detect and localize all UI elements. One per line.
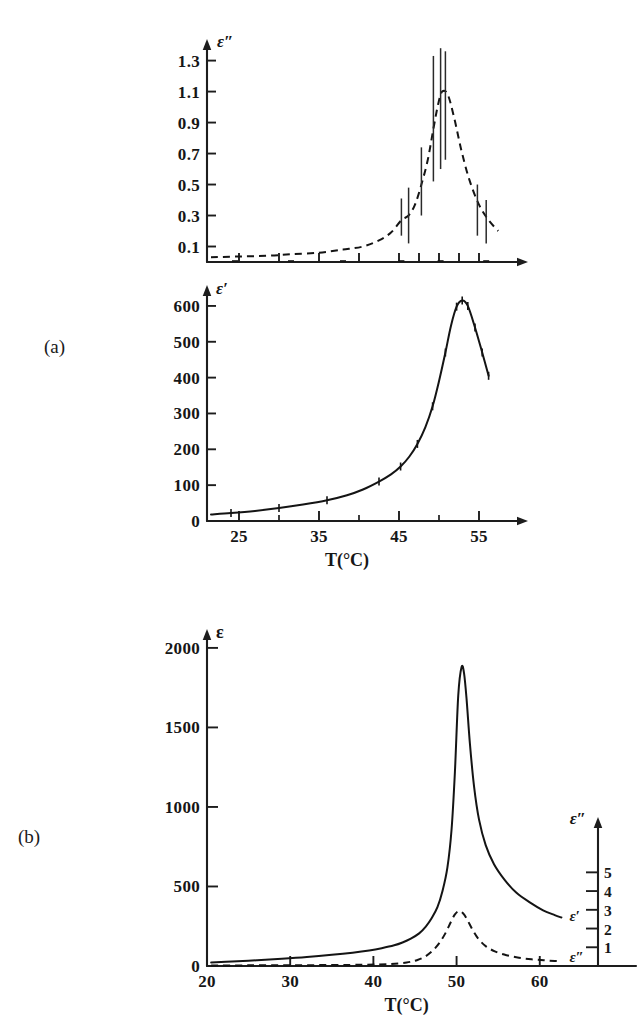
x-axis-caption: T(°C) [385, 995, 429, 1016]
axis-arrow-head [594, 817, 603, 828]
panel-label-b-text: (b) [18, 826, 40, 847]
x-tick-label: 55 [470, 527, 488, 546]
y-tick-label: 0.5 [178, 176, 200, 195]
subplot-epsilon-double-prime: ε″ 0.10.30.50.70.91.11.3 [178, 32, 528, 266]
x-tick-label: 35 [310, 527, 328, 546]
curve-group [211, 666, 561, 966]
y-tick-label: 500 [174, 333, 200, 352]
curve-group [211, 297, 489, 518]
panel-label-a-text: (a) [44, 336, 65, 357]
curve-label-epsilon-double-prime: ε″ [569, 949, 583, 965]
y-tick-label: 0.1 [178, 238, 200, 257]
epsilon-prime-curve [211, 666, 561, 963]
y-tick-label: 1.3 [178, 52, 200, 71]
tick-label-group: 05001000150020002030405060T(°C)ε″12345ε′… [165, 639, 612, 1016]
x-tick-label: 50 [448, 972, 466, 991]
axis-arrow-head [203, 39, 212, 50]
x-tick-label: 30 [281, 972, 299, 991]
axes-group: ε″ [203, 32, 528, 266]
tick-label-group: 010020030040050060025354555T(°C) [174, 297, 488, 571]
x-axis-caption: T(°C) [325, 550, 369, 571]
subplot-epsilon-prime: ε′ 010020030040050060025354555T(°C) [174, 279, 528, 571]
y-axis-title: ε″ [217, 32, 233, 51]
x-tick-label: 45 [390, 527, 408, 546]
y-tick-label: 2000 [165, 639, 200, 658]
curve-label-epsilon-prime: ε′ [569, 908, 579, 924]
chart-canvas: ε″ 0.10.30.50.70.91.11.3 ε′ 010020030040… [0, 0, 642, 1020]
y-tick-label: 0 [191, 512, 200, 531]
secondary-y-axis-title: ε″ [570, 809, 586, 828]
secondary-y-tick-label: 4 [604, 883, 612, 900]
subplot-panel-b: ε 05001000150020002030405060T(°C)ε″12345… [165, 622, 636, 1016]
secondary-y-tick-label: 5 [604, 864, 612, 881]
error-bar-group [232, 48, 489, 261]
y-tick-label: 500 [174, 877, 200, 896]
y-tick-label: 600 [174, 297, 200, 316]
panel-label-b: (b) [18, 826, 40, 848]
y-tick-label: 0.7 [178, 145, 200, 164]
axis-arrow-head [203, 629, 212, 640]
y-axis-title: ε′ [216, 279, 228, 298]
x-tick-label: 60 [531, 972, 549, 991]
axis-arrow-head [517, 258, 528, 267]
y-axis-title: ε [216, 622, 224, 642]
y-tick-label: 0.3 [178, 207, 200, 226]
secondary-y-tick-label: 1 [604, 939, 612, 956]
secondary-y-tick-label: 3 [604, 902, 612, 919]
y-tick-label: 1500 [165, 718, 200, 737]
epsilon-prime-curve [211, 301, 489, 515]
x-tick-label: 40 [365, 972, 383, 991]
epsilon-double-prime-curve [211, 91, 498, 258]
panel-label-a: (a) [44, 336, 65, 358]
axis-arrow-head [517, 517, 528, 526]
x-tick-label: 25 [230, 527, 248, 546]
y-tick-label: 400 [174, 369, 200, 388]
x-tick-label: 20 [198, 972, 216, 991]
figure-root: (a) (b) ε″ 0.10.30.50.70.91.11.3 ε′ 0100… [0, 0, 642, 1020]
y-tick-label: 0.9 [178, 114, 200, 133]
y-tick-label: 200 [174, 440, 200, 459]
tick-label-group: 0.10.30.50.70.91.11.3 [178, 52, 200, 257]
y-tick-label: 1.1 [178, 83, 200, 102]
y-tick-label: 100 [174, 476, 200, 495]
y-tick-label: 1000 [165, 798, 200, 817]
epsilon-double-prime-curve [211, 911, 561, 965]
secondary-y-tick-label: 2 [604, 921, 612, 938]
curve-group [211, 91, 498, 258]
y-tick-label: 300 [174, 404, 200, 423]
axis-arrow-head [203, 285, 212, 296]
